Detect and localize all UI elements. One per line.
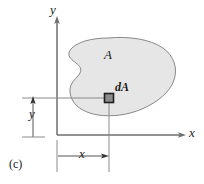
x-dimension-label: x [79, 147, 85, 160]
y-dimension-label: y [29, 107, 35, 120]
x-axis-label: x [189, 126, 195, 139]
figure-container: y x A dA y x (c) [0, 0, 204, 184]
element-da-square [105, 94, 114, 103]
y-axis-label: y [50, 3, 56, 16]
area-region-shape [69, 37, 176, 115]
figure-part-label: (c) [9, 158, 22, 170]
area-label: A [104, 48, 112, 61]
figure-drawing [0, 0, 204, 184]
element-da-label: dA [115, 81, 129, 93]
